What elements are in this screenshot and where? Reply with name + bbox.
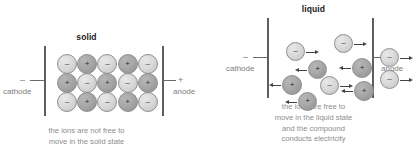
panel-solid-caption: the ions are not free to move in the sol…: [0, 126, 189, 148]
caption-line: move in the liquid state: [211, 113, 416, 124]
ion-negative: –: [286, 42, 305, 61]
panel-solid: solid – cathode + anode –+–+–+–+–+–+–+– …: [0, 0, 205, 165]
ion-motion-arrow-left: [298, 70, 307, 71]
solid-anode-label: anode: [173, 88, 195, 96]
ion-positive: +: [77, 92, 97, 112]
solid-ionic-lattice: –+–+–+–+–+–+–+–: [57, 54, 157, 112]
solid-cathode-plate: [44, 46, 46, 116]
panel-liquid: liquid – cathode + anode –––++–+–++ the …: [205, 0, 410, 165]
ion-charge-label: –: [105, 98, 109, 106]
ion-charge-label: +: [315, 65, 320, 73]
ion-negative: –: [138, 54, 158, 74]
solid-anode-lead: [163, 80, 176, 81]
ion-negative: –: [334, 34, 353, 53]
ion-charge-label: +: [105, 79, 110, 87]
ion-charge-label: +: [85, 98, 90, 106]
caption-line: the ions are not free to: [0, 126, 189, 137]
ion-charge-label: +: [125, 98, 130, 106]
solid-cathode-label: cathode: [3, 88, 31, 96]
ion-positive: +: [57, 73, 77, 93]
liquid-cathode-sign: –: [243, 53, 248, 62]
ion-negative: –: [97, 92, 117, 112]
ion-charge-label: +: [65, 79, 70, 87]
ion-motion-arrow-right: [340, 86, 349, 87]
panel-solid-title: solid: [0, 32, 189, 42]
solid-cathode-lead: [30, 80, 44, 81]
ion-charge-label: –: [387, 75, 391, 83]
solid-anode-sign: +: [178, 76, 183, 85]
ion-charge-label: +: [290, 81, 295, 89]
ion-negative: –: [380, 48, 399, 67]
ion-charge-label: +: [125, 60, 130, 68]
ion-positive: +: [77, 54, 97, 74]
ion-positive: +: [118, 92, 138, 112]
ion-negative: –: [380, 70, 399, 89]
ion-charge-label: –: [65, 60, 69, 68]
ion-charge-label: –: [146, 60, 150, 68]
caption-line: conducts electricity: [211, 134, 416, 145]
ion-positive: +: [118, 54, 138, 74]
ion-motion-arrow-right: [306, 52, 315, 53]
ion-motion-arrow-left: [342, 68, 351, 69]
ion-charge-label: –: [387, 53, 391, 61]
ion-charge-label: –: [105, 60, 109, 68]
ion-negative: –: [97, 54, 117, 74]
caption-line: and the compound: [211, 124, 416, 135]
ion-positive: +: [354, 81, 374, 101]
panel-liquid-title: liquid: [211, 4, 416, 14]
ion-charge-label: –: [341, 39, 345, 47]
ion-positive: +: [352, 58, 372, 78]
ion-charge-label: –: [85, 79, 89, 87]
liquid-cathode-label: cathode: [226, 65, 254, 73]
ion-charge-label: +: [85, 60, 90, 68]
ion-motion-arrow-right: [400, 58, 409, 59]
ion-motion-arrow-left: [272, 85, 281, 86]
ion-negative: –: [320, 76, 339, 95]
ion-negative: –: [77, 73, 97, 93]
ion-charge-label: –: [146, 98, 150, 106]
caption-line: move in the solid state: [0, 137, 189, 148]
liquid-cathode-lead: [253, 57, 267, 58]
ion-motion-arrow-right: [400, 80, 409, 81]
ion-positive: +: [282, 75, 302, 95]
ion-charge-label: +: [360, 64, 365, 72]
ion-charge-label: –: [125, 79, 129, 87]
ion-charge-label: –: [293, 47, 297, 55]
ion-charge-label: +: [362, 87, 367, 95]
ion-negative: –: [138, 92, 158, 112]
ion-positive: +: [97, 73, 117, 93]
ion-motion-arrow-left: [288, 102, 297, 103]
ion-negative: –: [57, 54, 77, 74]
ion-negative: –: [57, 92, 77, 112]
ion-positive: +: [138, 73, 158, 93]
ion-motion-arrow-right: [354, 44, 363, 45]
ion-charge-label: –: [65, 98, 69, 106]
solid-cathode-sign: –: [20, 76, 25, 85]
ion-motion-arrow-left: [344, 91, 353, 92]
liquid-free-ions: –––++–+–++: [268, 18, 376, 100]
ion-positive: +: [298, 92, 317, 111]
ion-charge-label: +: [305, 97, 310, 105]
ion-charge-label: –: [327, 81, 331, 89]
ion-negative: –: [118, 73, 138, 93]
figure-footer-note: [6, 158, 406, 165]
ion-charge-label: +: [145, 79, 150, 87]
